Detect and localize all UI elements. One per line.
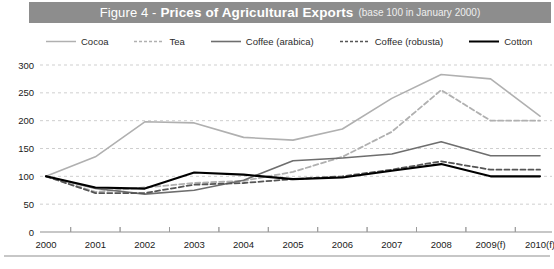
series-line-coffee-arabica	[46, 142, 540, 194]
x-axis-tick-label: 2009(f)	[476, 239, 506, 250]
x-axis-tick-label: 2003	[184, 239, 205, 250]
y-axis-tick-label: 250	[18, 87, 34, 98]
plot-area: 3002502001501005002000200120022003200420…	[0, 0, 554, 269]
y-axis-tick-label: 200	[18, 115, 34, 126]
x-axis-tick-label: 2005	[282, 239, 303, 250]
y-axis-tick-label: 300	[18, 60, 34, 71]
x-axis-tick-label: 2001	[85, 239, 106, 250]
x-axis-tick-label: 2004	[233, 239, 254, 250]
x-axis-tick-label: 2006	[332, 239, 353, 250]
y-axis-tick-label: 50	[23, 199, 34, 210]
x-axis-tick-label: 2007	[381, 239, 402, 250]
y-axis-tick-label: 0	[29, 227, 34, 238]
x-axis-tick-label: 2008	[431, 239, 452, 250]
x-axis-tick-label: 2010(f)	[525, 239, 554, 250]
line-chart: 3002502001501005002000200120022003200420…	[0, 0, 554, 269]
x-axis-tick-label: 2000	[35, 239, 56, 250]
y-axis-tick-label: 150	[18, 143, 34, 154]
figure-container: Figure 4 - Prices of Agricultural Export…	[0, 0, 554, 269]
y-axis-tick-label: 100	[18, 171, 34, 182]
x-axis-tick-label: 2002	[134, 239, 155, 250]
